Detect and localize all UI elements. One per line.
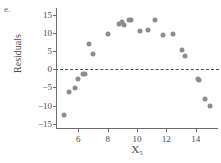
x-tick-mark — [137, 128, 138, 132]
panel-letter-label: e. — [4, 4, 11, 14]
scatter-point — [152, 17, 157, 22]
scatter-point — [76, 77, 81, 82]
y-tick-mark — [53, 124, 57, 125]
y-tick-mark — [53, 106, 57, 107]
y-tick-mark — [53, 51, 57, 52]
x-tick-label: 12 — [162, 134, 171, 144]
y-tick-label: 5 — [48, 46, 53, 56]
scatter-point — [129, 17, 134, 22]
x-tick-label: 8 — [105, 134, 110, 144]
plot-area: 151050−5−10−15 68101214 — [57, 9, 217, 128]
scatter-point — [66, 89, 71, 94]
scatter-point — [72, 86, 77, 91]
x-tick-label: 6 — [76, 134, 81, 144]
x-tick-label: 10 — [133, 134, 142, 144]
x-tick-mark — [108, 128, 109, 132]
x-axis-label: X5 — [57, 143, 217, 155]
scatter-point — [179, 48, 184, 53]
y-tick-mark — [53, 69, 57, 70]
zero-reference-line — [55, 69, 219, 70]
y-tick-mark — [53, 33, 57, 34]
x-tick-mark — [78, 128, 79, 132]
y-tick-label: −15 — [38, 119, 52, 129]
scatter-point — [207, 104, 212, 109]
x-tick-mark — [166, 128, 167, 132]
scatter-point — [87, 41, 92, 46]
residual-plot-figure: e. Residuals X5 151050−5−10−15 68101214 — [0, 0, 221, 163]
x-axis-label-subscript: 5 — [139, 149, 143, 157]
scatter-point — [105, 31, 110, 36]
scatter-point — [62, 112, 67, 117]
y-tick-mark — [53, 15, 57, 16]
scatter-point — [121, 23, 126, 28]
y-tick-label: 15 — [43, 10, 52, 20]
scatter-point — [82, 71, 87, 76]
scatter-point — [170, 32, 175, 37]
y-tick-label: 10 — [43, 28, 52, 38]
scatter-point — [202, 97, 207, 102]
y-tick-label: −10 — [38, 101, 52, 111]
scatter-point — [146, 28, 151, 33]
scatter-point — [160, 32, 165, 37]
x-tick-mark — [196, 128, 197, 132]
y-tick-label: −5 — [42, 82, 52, 92]
scatter-point — [90, 51, 95, 56]
y-tick-mark — [53, 87, 57, 88]
scatter-point — [137, 28, 142, 33]
x-tick-label: 14 — [191, 134, 200, 144]
y-tick-label: 0 — [48, 64, 53, 74]
scatter-point — [183, 54, 188, 59]
scatter-point — [197, 77, 202, 82]
y-axis-label: Residuals — [12, 18, 23, 90]
